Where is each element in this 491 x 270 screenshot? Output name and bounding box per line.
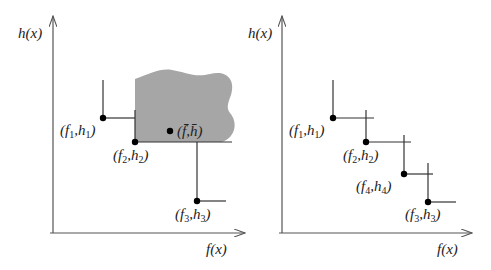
right-point-1 xyxy=(330,115,336,121)
left-point-3-label: (f3,h3) xyxy=(175,206,210,224)
left-y-axis-label: h(x) xyxy=(18,25,42,42)
right-point-3 xyxy=(425,199,431,205)
right-point-3-label: (f3,h3) xyxy=(405,206,440,224)
left-mean-point xyxy=(167,128,173,134)
right-panel: h(x) f(x) (f1,h1) (f2,h2) (f4,h4) (f3,h3… xyxy=(248,16,472,258)
left-point-2-label: (f2,h2) xyxy=(113,147,148,165)
right-point-4-label: (f4,h4) xyxy=(356,178,391,196)
left-panel: h(x) f(x) (f1,h1) (f2,h2) (f̄,h̄) (f3,h3… xyxy=(18,16,245,258)
right-point-1-label: (f1,h1) xyxy=(289,122,324,140)
left-point-3 xyxy=(194,198,200,204)
right-x-axis-label: f(x) xyxy=(437,241,458,258)
left-x-axis-label: f(x) xyxy=(206,241,227,258)
right-point-2-label: (f2,h2) xyxy=(343,147,378,165)
right-point-4 xyxy=(401,171,407,177)
right-point-2 xyxy=(363,139,369,145)
left-point-1 xyxy=(100,115,106,121)
left-point-2 xyxy=(132,139,138,145)
left-point-1-label: (f1,h1) xyxy=(60,122,95,140)
right-y-axis-label: h(x) xyxy=(248,25,272,42)
pareto-diagram: h(x) f(x) (f1,h1) (f2,h2) (f̄,h̄) (f3,h3… xyxy=(0,0,491,270)
left-mean-point-label: (f̄,h̄) xyxy=(177,123,202,140)
